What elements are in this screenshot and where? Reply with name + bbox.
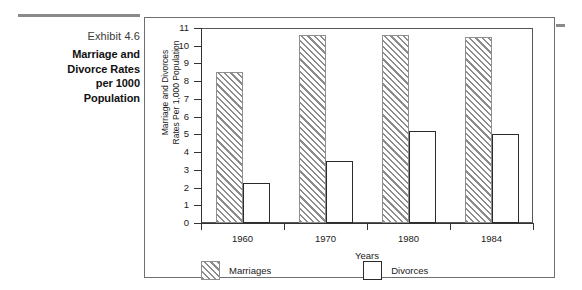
caption-rule: [18, 14, 140, 17]
chart-legend: Marriages Divorces: [201, 261, 428, 280]
y-axis-tick-label: 1: [149, 200, 189, 210]
y-axis-tick-label: 6: [149, 112, 189, 122]
bar-divorces-1960: [243, 183, 270, 223]
legend-label-divorces: Divorces: [391, 265, 428, 276]
x-axis-tick: [367, 224, 368, 230]
y-axis-tick: [194, 134, 201, 135]
bar-marriages-1980: [382, 35, 409, 223]
y-axis-tick-label: 8: [149, 76, 189, 86]
exhibit-title-line: Divorce Rates: [18, 62, 140, 77]
legend-item-marriages: Marriages: [201, 261, 271, 280]
y-axis-tick-label: 4: [149, 147, 189, 157]
frame-corner-tick: [556, 24, 565, 27]
x-axis-tick: [284, 224, 285, 230]
x-axis-tick-label: 1984: [462, 233, 522, 244]
y-axis-tick-label: 7: [149, 94, 189, 104]
y-axis-tick-label: 9: [149, 58, 189, 68]
legend-label-marriages: Marriages: [229, 265, 271, 276]
legend-item-divorces: Divorces: [363, 261, 428, 280]
y-axis-tick: [194, 99, 201, 100]
y-axis-tick-label: 11: [149, 23, 189, 33]
x-axis-tick: [533, 224, 534, 230]
bar-marriages-1970: [299, 35, 326, 223]
y-axis-tick: [194, 46, 201, 47]
y-axis-tick: [194, 63, 201, 64]
y-axis-tick-label: 0: [149, 218, 189, 228]
y-axis-line: [201, 28, 202, 224]
y-axis-tick: [194, 170, 201, 171]
bar-marriages-1984: [465, 37, 492, 223]
y-axis-tick: [194, 28, 201, 29]
figure-frame: Marriage and Divorces Rates Per 1,000 Po…: [144, 17, 555, 278]
y-axis-tick: [194, 188, 201, 189]
y-axis-tick-label: 2: [149, 183, 189, 193]
y-axis-tick-label: 5: [149, 129, 189, 139]
exhibit-number: Exhibit 4.6: [18, 29, 140, 44]
exhibit-title-line: Marriage and: [18, 47, 140, 62]
y-axis-tick: [194, 117, 201, 118]
x-axis-tick: [450, 224, 451, 230]
exhibit-title-line: Population: [18, 91, 140, 106]
x-axis-tick-label: 1960: [213, 233, 273, 244]
exhibit-title: Marriage and Divorce Rates per 1000 Popu…: [18, 47, 140, 105]
y-axis-tick: [194, 205, 201, 206]
y-axis-tick-label: 3: [149, 165, 189, 175]
legend-swatch-divorces: [363, 261, 382, 280]
x-axis-tick: [201, 224, 202, 230]
x-axis-title: Years: [201, 250, 533, 261]
y-axis-tick-label: 10: [149, 41, 189, 51]
legend-swatch-marriages: [201, 261, 220, 280]
bar-divorces-1970: [326, 161, 353, 223]
x-axis-tick-label: 1970: [296, 233, 356, 244]
bar-marriages-1960: [216, 72, 243, 223]
x-axis-tick-label: 1980: [379, 233, 439, 244]
exhibit-caption: Exhibit 4.6 Marriage and Divorce Rates p…: [18, 14, 140, 105]
bar-divorces-1984: [492, 134, 519, 223]
bar-chart: Marriage and Divorces Rates Per 1,000 Po…: [145, 18, 556, 279]
y-axis-tick: [194, 81, 201, 82]
y-axis-tick: [194, 152, 201, 153]
y-axis-tick: [194, 223, 201, 224]
exhibit-title-line: per 1000: [18, 76, 140, 91]
bar-divorces-1980: [409, 131, 436, 223]
